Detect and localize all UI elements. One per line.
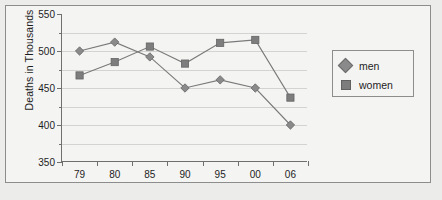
diamond-marker-icon bbox=[338, 58, 354, 74]
square-marker-icon bbox=[287, 94, 294, 101]
plot-area: 550500450400350 79808590950006 bbox=[61, 14, 307, 162]
square-marker-icon bbox=[146, 43, 153, 50]
legend-label: women bbox=[359, 79, 393, 91]
chart-legend: menwomen bbox=[332, 50, 414, 97]
x-axis-tick-label: 06 bbox=[285, 169, 296, 180]
diamond-marker-icon bbox=[111, 38, 119, 46]
square-marker-icon bbox=[181, 60, 188, 67]
legend-label: men bbox=[359, 60, 379, 72]
x-axis-tick-label: 85 bbox=[144, 169, 155, 180]
series-men bbox=[75, 38, 294, 129]
square-marker-icon bbox=[341, 80, 351, 90]
x-axis-tick-label: 90 bbox=[179, 169, 190, 180]
legend-item-men: men bbox=[339, 56, 413, 75]
y-axis-tick-label: 450 bbox=[38, 83, 55, 94]
x-axis-tick bbox=[308, 161, 309, 166]
y-axis-tick-label: 400 bbox=[38, 120, 55, 131]
square-marker-icon bbox=[111, 59, 118, 66]
legend-marker-wrap bbox=[339, 80, 352, 90]
data-series-layer bbox=[62, 14, 308, 162]
y-axis-tick-label: 350 bbox=[38, 157, 55, 168]
chart-area: Deaths in Thousands 550500450400350 7980… bbox=[6, 6, 432, 184]
y-axis-title: Deaths in Thousands bbox=[23, 0, 35, 125]
x-axis-tick-label: 79 bbox=[74, 169, 85, 180]
y-axis-tick-label: 550 bbox=[38, 9, 55, 20]
legend-marker-wrap bbox=[339, 60, 352, 71]
x-axis-tick-label: 00 bbox=[250, 169, 261, 180]
x-axis-tick-label: 80 bbox=[109, 169, 120, 180]
x-axis-tick-label: 95 bbox=[215, 169, 226, 180]
square-marker-icon bbox=[76, 72, 83, 79]
chart-frame: Deaths in Thousands 550500450400350 7980… bbox=[5, 5, 431, 183]
legend-item-women: women bbox=[339, 75, 413, 94]
square-marker-icon bbox=[217, 39, 224, 46]
square-marker-icon bbox=[252, 36, 259, 43]
diamond-marker-icon bbox=[216, 76, 224, 84]
diamond-marker-icon bbox=[75, 47, 83, 55]
y-axis-tick-label: 500 bbox=[38, 46, 55, 57]
